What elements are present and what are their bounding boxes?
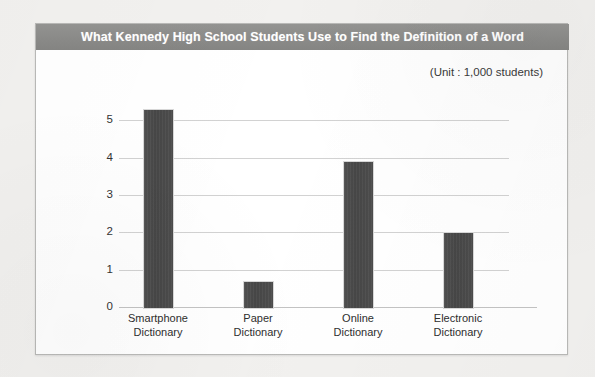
xtick-line1: Smartphone [128,312,188,324]
axis-baseline [119,307,537,308]
ytick-label-4: 4 [91,152,113,164]
xtick-line1: Electronic [434,312,482,324]
bar-smartphone-dictionary[interactable] [143,109,174,309]
xtick-line2: Dictionary [210,326,306,340]
xtick-label-electronic-dictionary: Electronic Dictionary [410,312,506,339]
xtick-label-smartphone-dictionary: Smartphone Dictionary [110,312,206,339]
xtick-line2: Dictionary [410,326,506,340]
bar-electronic-dictionary[interactable] [443,232,474,309]
gridline-4 [119,158,509,159]
xtick-line1: Online [342,312,374,324]
ytick-label-3: 3 [91,189,113,201]
ytick-label-2: 2 [91,226,113,238]
ytick-label-0: 0 [91,301,113,313]
gridline-5 [119,120,509,121]
ytick-label-5: 5 [91,114,113,126]
bar-online-dictionary[interactable] [343,161,374,309]
xtick-line2: Dictionary [310,326,406,340]
plot-area: 5 4 3 2 1 0 Smartphone Dictionary Paper … [36,24,569,356]
chart-card: What Kennedy High School Students Use to… [35,23,568,355]
xtick-line1: Paper [243,312,272,324]
gridline-3 [119,195,509,196]
xtick-label-online-dictionary: Online Dictionary [310,312,406,339]
xtick-line2: Dictionary [110,326,206,340]
bar-paper-dictionary[interactable] [243,281,274,309]
ytick-label-1: 1 [91,264,113,276]
xtick-label-paper-dictionary: Paper Dictionary [210,312,306,339]
